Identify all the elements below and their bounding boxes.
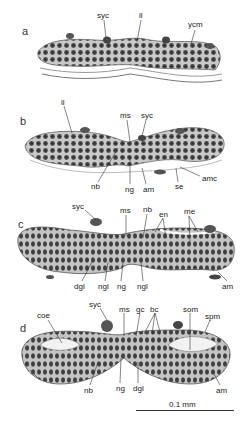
- label-syc: syc: [97, 12, 109, 20]
- label-dgl: dgl: [74, 283, 85, 291]
- label-am: am: [143, 186, 154, 194]
- label-syc: syc: [72, 203, 84, 211]
- label-bc: bc: [150, 306, 158, 314]
- label-il: il: [61, 99, 65, 107]
- scale-bar: [136, 410, 234, 411]
- label-spm: spm: [205, 313, 220, 321]
- label-ms: ms: [120, 112, 131, 120]
- label-syc: syc: [89, 301, 101, 309]
- label-am: am: [222, 283, 233, 291]
- label-nb: nb: [91, 183, 100, 191]
- label-ng: ng: [125, 186, 134, 194]
- label-coe: coe: [37, 312, 50, 320]
- histology-figure: a b c d syc il ycm il ms syc amc nb ng a…: [0, 0, 246, 429]
- label-dgl: dgl: [133, 385, 144, 393]
- panel-letter-a: a: [22, 25, 28, 37]
- label-nb: nb: [84, 387, 93, 395]
- label-en: en: [159, 211, 168, 219]
- section-d: [22, 308, 230, 385]
- label-se: se: [175, 183, 183, 191]
- label-ng: ng: [117, 283, 126, 291]
- section-c: [18, 210, 234, 281]
- label-ngl: ngl: [98, 283, 109, 291]
- panel-letter-c: c: [18, 218, 24, 230]
- scale-bar-label: 0.1 mm: [169, 400, 196, 409]
- label-me: me: [184, 208, 195, 216]
- panel-letter-b: b: [20, 115, 26, 127]
- label-ms: ms: [120, 207, 131, 215]
- label-am: am: [216, 387, 227, 395]
- label-nb: nb: [143, 206, 152, 214]
- label-ycm: ycm: [188, 21, 203, 29]
- label-ngl: ngl: [137, 283, 148, 291]
- panel-letter-d: d: [20, 322, 26, 334]
- label-ng: ng: [116, 385, 125, 393]
- label-il: il: [139, 12, 143, 20]
- label-amc: amc: [202, 175, 217, 183]
- label-ms: ms: [119, 306, 130, 314]
- label-syc: syc: [141, 112, 153, 120]
- label-som: som: [183, 306, 198, 314]
- label-gc: gc: [136, 306, 144, 314]
- section-a: [38, 20, 222, 82]
